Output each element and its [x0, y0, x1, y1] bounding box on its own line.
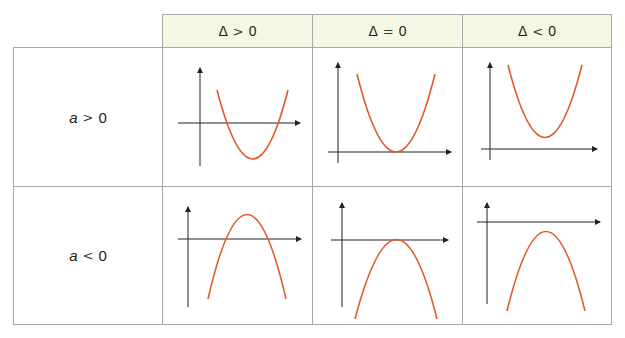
graph-a-pos-delta-pos	[162, 47, 313, 187]
graph-a-pos-delta-zero	[312, 47, 463, 187]
parabola-two-roots-up-icon	[163, 48, 314, 188]
relation-symbol: >	[78, 110, 99, 125]
parabola-two-roots-down-icon	[163, 187, 314, 326]
delta-symbol: Δ	[518, 23, 527, 39]
header-delta-positive: Δ > 0	[162, 14, 313, 48]
value: 0	[399, 23, 407, 39]
graph-a-pos-delta-neg	[462, 47, 612, 187]
variable-a: a	[69, 109, 77, 126]
header-delta-negative: Δ < 0	[462, 14, 612, 48]
parabola-one-root-down-icon	[313, 187, 464, 326]
graph-a-neg-delta-zero	[312, 186, 463, 325]
value: 0	[249, 23, 257, 39]
variable-a: a	[69, 247, 77, 264]
parabola-one-root-up-icon	[313, 48, 464, 188]
graph-a-neg-delta-neg	[462, 186, 612, 325]
delta-symbol: Δ	[368, 23, 377, 39]
relation-symbol: <	[78, 248, 99, 263]
relation-symbol: =	[378, 24, 399, 39]
row-header-a-positive: a > 0	[13, 47, 163, 187]
graph-a-neg-delta-pos	[162, 186, 313, 325]
row-header-a-negative: a < 0	[13, 186, 163, 325]
header-delta-zero: Δ = 0	[312, 14, 463, 48]
relation-symbol: >	[228, 24, 249, 39]
value: 0	[98, 247, 106, 264]
value: 0	[98, 109, 106, 126]
value: 0	[548, 23, 556, 39]
relation-symbol: <	[527, 24, 548, 39]
parabola-no-roots-down-icon	[463, 187, 613, 326]
parabola-no-roots-up-icon	[463, 48, 613, 188]
delta-symbol: Δ	[218, 23, 227, 39]
